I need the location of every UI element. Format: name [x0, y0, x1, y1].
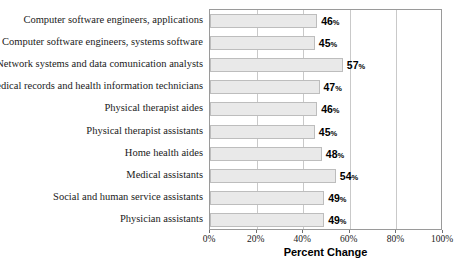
- bar-value-number: 49: [328, 214, 340, 226]
- bar-row: 49%: [210, 191, 443, 205]
- chart-screenshot: Computer software engineers, application…: [0, 0, 458, 264]
- bar-value-number: 47: [324, 81, 336, 93]
- bar: [210, 125, 315, 139]
- category-axis: Computer software engineers, application…: [0, 9, 206, 230]
- bar-row: 47%: [210, 80, 443, 94]
- percent-sign: %: [352, 173, 359, 182]
- plot-area: 46%45%57%47%46%45%48%54%49%49%: [209, 9, 442, 230]
- bar-row: 57%: [210, 58, 443, 72]
- category-label: Medical records and health information t…: [0, 79, 203, 93]
- bar-value-number: 48: [326, 148, 338, 160]
- bar-value-label: 46%: [321, 13, 339, 29]
- category-label: Social and human service assistants: [53, 190, 203, 204]
- category-label: Computer software engineers, application…: [23, 13, 203, 27]
- x-tick-label: 60%: [340, 233, 357, 245]
- category-label: Physician assistants: [120, 212, 203, 226]
- x-tick-label: 40%: [293, 233, 310, 245]
- bar: [210, 213, 324, 227]
- category-label: Medical assistants: [126, 168, 203, 182]
- bar: [210, 58, 343, 72]
- percent-sign: %: [340, 195, 347, 204]
- bar-row: 45%: [210, 36, 443, 50]
- bar-value-number: 54: [340, 170, 352, 182]
- bar-value-label: 49%: [328, 212, 346, 228]
- bar-row: 48%: [210, 147, 443, 161]
- bar-value-number: 46: [321, 15, 333, 27]
- bar-value-number: 57: [347, 59, 359, 71]
- bar: [210, 14, 317, 28]
- percent-sign: %: [331, 129, 338, 138]
- percent-sign: %: [358, 62, 365, 71]
- bar-value-label: 49%: [328, 190, 346, 206]
- bar-row: 46%: [210, 14, 443, 28]
- category-label: Physical therapist aides: [104, 101, 203, 115]
- bar-row: 46%: [210, 102, 443, 116]
- bar-row: 49%: [210, 213, 443, 227]
- bar: [210, 36, 315, 50]
- bar-value-label: 47%: [324, 79, 342, 95]
- x-tick-label: 100%: [431, 233, 453, 245]
- percent-sign: %: [338, 151, 345, 160]
- bar: [210, 80, 320, 94]
- chart-title: [0, 0, 458, 5]
- bar-value-label: 57%: [347, 57, 365, 73]
- bar-value-number: 45: [319, 37, 331, 49]
- category-label: Physical therapist assistants: [86, 124, 203, 138]
- bar-value-label: 45%: [319, 124, 337, 140]
- x-tick-label: 0%: [203, 233, 216, 245]
- category-label: Network systems and data comunication an…: [0, 57, 203, 71]
- bar-value-label: 45%: [319, 35, 337, 51]
- bar-row: 45%: [210, 125, 443, 139]
- percent-sign: %: [333, 18, 340, 27]
- bar-row: 54%: [210, 169, 443, 183]
- x-tick-label: 20%: [247, 233, 264, 245]
- x-tick-label: 80%: [387, 233, 404, 245]
- bar: [210, 147, 322, 161]
- bar-value-label: 54%: [340, 168, 358, 184]
- percent-sign: %: [333, 106, 340, 115]
- x-axis-title: Percent Change: [209, 246, 442, 258]
- percent-sign: %: [331, 40, 338, 49]
- category-label: Home health aides: [125, 146, 203, 160]
- bar-value-label: 48%: [326, 146, 344, 162]
- bar: [210, 169, 336, 183]
- bar: [210, 191, 324, 205]
- percent-sign: %: [335, 84, 342, 93]
- category-label: Computer software engineers, systems sof…: [2, 35, 203, 49]
- bar-value-number: 49: [328, 192, 340, 204]
- bar-value-label: 46%: [321, 101, 339, 117]
- bar: [210, 102, 317, 116]
- percent-sign: %: [340, 217, 347, 226]
- bar-value-number: 45: [319, 126, 331, 138]
- x-axis: 0%20%40%60%80%100%: [209, 230, 442, 246]
- bar-value-number: 46: [321, 103, 333, 115]
